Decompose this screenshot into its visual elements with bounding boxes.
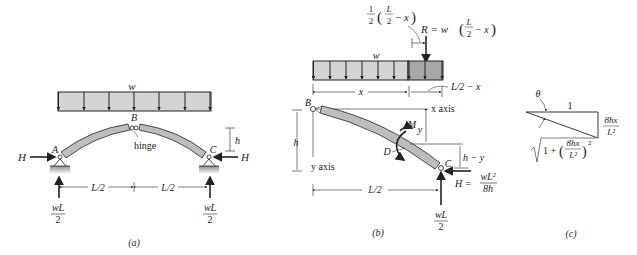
load-label-w-b: w: [373, 50, 380, 61]
svg-text:): ): [411, 9, 416, 26]
thrust-label-b: H = wL² 8h: [454, 171, 497, 194]
svg-text:wL²: wL²: [480, 171, 496, 182]
rise-dimension-h: [225, 128, 235, 151]
opposite-label: 8hx L²: [603, 115, 619, 137]
x-dimension: [313, 84, 442, 97]
panel-b: 1 2 ( L 2 − x ) R = w ( L 2 − x ) w: [292, 4, 497, 239]
y-dimension: [410, 111, 468, 168]
svg-text:2: 2: [467, 29, 472, 39]
svg-text:R = w: R = w: [420, 23, 449, 35]
half-arch-member: [320, 106, 440, 169]
panel-a: w B hinge: [17, 80, 250, 249]
caption-c: (c): [565, 228, 577, 240]
svg-text:L: L: [385, 4, 391, 14]
slope-triangle: [526, 112, 598, 138]
label-d: D: [382, 146, 391, 157]
svg-text:1 +: 1 +: [543, 145, 557, 156]
pin-c-icon: [439, 166, 444, 171]
label-b: B: [131, 112, 137, 123]
svg-text:L²: L²: [568, 150, 577, 160]
resultant-offset-label: 1 2 ( L 2 − x ): [367, 4, 416, 26]
svg-text:wL: wL: [204, 202, 217, 213]
span-label-b: L/2: [367, 184, 381, 195]
label-c: C: [210, 144, 217, 155]
svg-text:): ): [491, 21, 496, 38]
span-left-label: L/2: [90, 182, 104, 193]
svg-text:2: 2: [56, 214, 61, 225]
caption-a: (a): [128, 237, 140, 249]
label-b-2: B: [305, 97, 311, 108]
distributed-load-b: [313, 61, 443, 80]
distributed-load-a: [58, 92, 211, 111]
svg-text:L: L: [465, 17, 471, 27]
svg-text:): ): [582, 144, 587, 160]
svg-text:2: 2: [208, 214, 213, 225]
y-dim-label: y: [417, 124, 423, 135]
resultant-label: R = w ( L 2 − x ): [420, 17, 496, 39]
thrust-label-right: H: [240, 151, 250, 163]
svg-text:2: 2: [439, 221, 444, 232]
span-dimension: [62, 182, 207, 192]
remaining-dim-label: L/2 − x: [450, 81, 481, 92]
label-c-2: C: [445, 158, 452, 169]
svg-text:8hx: 8hx: [567, 138, 580, 148]
arch-member-left: [61, 124, 130, 158]
hinge-b: [130, 126, 138, 130]
pin-support-a: [50, 155, 70, 174]
moment-label: M: [407, 119, 417, 130]
hinge-b-icon: [311, 107, 316, 112]
caption-b: (b): [372, 227, 384, 239]
angle-label: θ: [536, 88, 541, 99]
rise-label: h: [235, 135, 240, 146]
svg-text:H =: H =: [454, 178, 471, 189]
svg-text:8hx: 8hx: [605, 115, 618, 125]
h-dim-label: h: [294, 137, 299, 148]
panel-c: θ 1 8hx L² 1 + ( 8hx L² ) 2 (c): [526, 88, 619, 240]
reaction-label-right: wL 2: [203, 202, 217, 225]
y-axis-label: y axis: [311, 161, 335, 172]
hypotenuse-label: 1 + ( 8hx L² ) 2: [531, 138, 596, 162]
h-minus-y-label: h − y: [463, 152, 485, 163]
thrust-label-left: H: [17, 151, 27, 163]
svg-text:(: (: [459, 21, 464, 38]
svg-text:− x: − x: [475, 24, 489, 35]
svg-text:− x: − x: [395, 12, 409, 23]
svg-text:wL: wL: [435, 209, 448, 220]
svg-text:2: 2: [387, 16, 392, 26]
svg-text:wL: wL: [52, 202, 65, 213]
three-hinged-arch-figure: w B hinge: [0, 0, 637, 255]
adjacent-label: 1: [568, 100, 573, 111]
svg-text:8h: 8h: [483, 183, 493, 194]
resultant-offset-dim: [412, 38, 425, 48]
hinge-label: hinge: [134, 140, 157, 151]
svg-text:1: 1: [369, 4, 374, 14]
reaction-label-left: wL 2: [51, 202, 65, 225]
x-dim-label: x: [358, 86, 364, 97]
x-axis-label: x axis: [431, 103, 455, 114]
svg-text:(: (: [559, 144, 564, 160]
svg-text:2: 2: [369, 16, 374, 26]
svg-text:(: (: [377, 9, 382, 26]
label-a: A: [51, 144, 59, 155]
span-right-label: L/2: [160, 182, 174, 193]
svg-text:2: 2: [588, 139, 592, 147]
reaction-label-b: wL 2: [434, 209, 448, 232]
svg-text:L²: L²: [606, 127, 615, 137]
load-label-w: w: [128, 80, 136, 92]
